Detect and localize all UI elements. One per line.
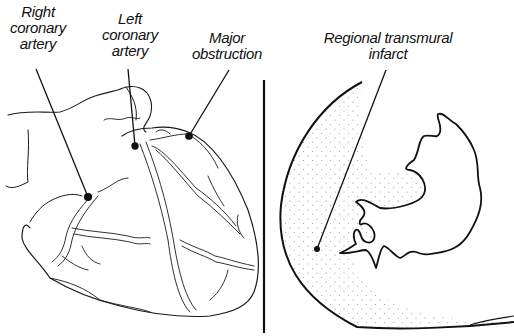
lad-artery <box>140 144 190 312</box>
right-coronary-artery-vessel <box>52 195 92 262</box>
leader-left-coronary <box>128 69 135 146</box>
heart-outline <box>22 127 258 316</box>
marker-infarct <box>314 246 320 252</box>
ventricle-cross-section <box>280 70 514 328</box>
marker-right-coronary <box>85 194 92 201</box>
leader-right-coronary <box>36 69 88 197</box>
marker-major-obstruction <box>186 133 192 139</box>
diagram-canvas <box>0 0 514 336</box>
leader-major-obstruction <box>189 70 229 136</box>
marker-left-coronary <box>132 143 138 149</box>
leader-lines-left <box>36 69 229 200</box>
